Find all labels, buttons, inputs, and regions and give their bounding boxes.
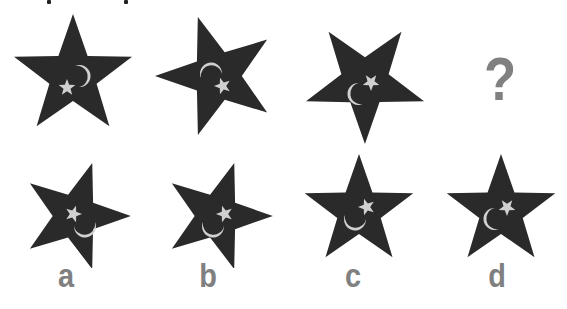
option-a-label[interactable]: a [49, 258, 83, 292]
cropped-text-fragment [47, 0, 51, 4]
cropped-text-fragment [124, 0, 128, 4]
option-a-figure[interactable] [10, 158, 140, 268]
option-b-label[interactable]: b [191, 258, 225, 292]
option-d-figure[interactable] [436, 153, 566, 263]
option-c-label[interactable]: c [336, 258, 370, 292]
sequence-figure-3 [300, 20, 430, 145]
question-mark-placeholder: ? [479, 48, 522, 110]
option-d-label[interactable]: d [480, 258, 514, 292]
option-c-figure[interactable] [294, 153, 424, 263]
sequence-figure-1 [8, 12, 138, 137]
option-b-figure[interactable] [152, 158, 282, 268]
sequence-figure-2 [150, 12, 280, 137]
